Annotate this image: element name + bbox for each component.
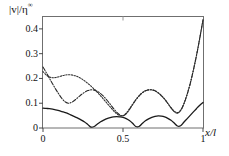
y-axis-label-exponent: ∞ [28, 1, 33, 9]
data-series-group [43, 19, 203, 127]
y-tick-label: 0.4 [8, 23, 38, 34]
x-tick-label: 0.5 [108, 133, 138, 144]
y-tick-label: 0.3 [8, 48, 38, 59]
y-axis-label: |v|/η∞ [9, 2, 33, 15]
y-tick-label: 0 [8, 122, 38, 133]
x-tick-label: 1 [188, 133, 218, 144]
y-axis-label-base: |v|/η [9, 3, 28, 15]
chart-figure: |v|/η∞ x/l 00.10.20.30.4 00.51 [0, 0, 229, 156]
x-tick-label: 0 [28, 133, 58, 144]
series-line-dotted [43, 19, 203, 115]
y-tick-label: 0.1 [8, 97, 38, 108]
series-line-dash-dot [43, 20, 203, 116]
series-line-solid [43, 102, 203, 127]
y-tick-label: 0.2 [8, 72, 38, 83]
